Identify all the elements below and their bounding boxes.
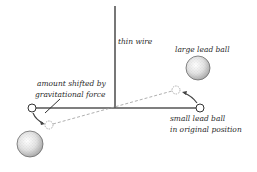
small-ball-right-original [196,104,204,112]
label-leader-line [45,99,60,113]
large-ball-right-texture [186,56,210,80]
small-ball-right-displaced [172,86,180,94]
torsion-balance-diagram: thin wire large lead ball amount shifted… [0,0,257,172]
small-ball-left-original [28,104,36,112]
label-shift-line2: gravitational force [35,91,106,99]
label-thin-wire: thin wire [118,38,152,46]
large-ball-left-texture [17,131,43,157]
small-ball-left-displaced [45,121,53,129]
shift-arrow-left [33,113,43,123]
label-shift-line1: amount shifted by [37,80,106,88]
label-large-lead-ball: large lead ball [175,46,230,54]
arrowhead-left-icon [40,121,45,125]
label-small-ball-line1: small lead ball [170,115,225,123]
label-small-ball-line2: in original position [170,126,242,134]
